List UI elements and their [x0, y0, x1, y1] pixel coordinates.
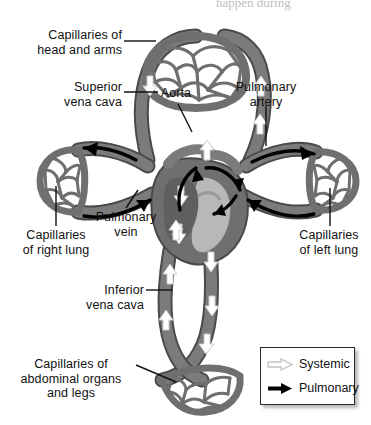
label-capillaries-abdominal: Capillaries of abdominal organs and legs	[8, 357, 134, 401]
legend-item-systemic: Systemic	[267, 356, 350, 372]
label-inferior-vena-cava: Inferior vena cava	[50, 283, 144, 312]
label-capillaries-head-arms: Capillaries of head and arms	[10, 28, 122, 57]
legend-label-systemic: Systemic	[299, 357, 350, 371]
heart	[151, 149, 248, 264]
legend-item-pulmonary: Pulmonary	[267, 380, 359, 396]
capillary-bed-right-lung-mesh	[45, 158, 80, 206]
label-capillaries-left-lung: Capillaries of left lung	[288, 228, 370, 257]
label-superior-vena-cava: Superior vena cava	[26, 80, 122, 109]
circulatory-system-diagram: happen during	[0, 0, 371, 425]
label-pulmonary-vein: Pulmonary vein	[86, 210, 166, 239]
legend-box: Systemic Pulmonary	[260, 347, 355, 405]
open-arrow-right-icon	[267, 358, 293, 371]
label-pulmonary-artery: Pulmonary artery	[228, 80, 304, 109]
label-aorta: Aorta	[152, 86, 200, 101]
solid-arrow-right-icon	[267, 382, 293, 395]
capillary-bed-left-lung-mesh	[314, 158, 350, 206]
legend-label-pulmonary: Pulmonary	[299, 381, 359, 395]
